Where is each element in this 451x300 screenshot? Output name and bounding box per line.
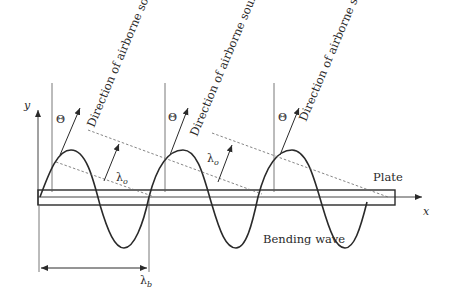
direction-label-3: Direction of airborne sound [296, 0, 372, 123]
direction-label-1: Direction of airborne sound [84, 0, 160, 129]
wavefront-3 [212, 133, 388, 197]
theta-label-3: Θ [278, 111, 287, 124]
theta-label-1: Θ [56, 113, 65, 126]
direction-label-2: Direction of airborne sound [187, 0, 263, 138]
lambda-b-label: λb [140, 274, 152, 289]
bending-wave-label: Bending wave [263, 232, 345, 246]
plate-label: Plate [373, 170, 403, 184]
lambda-o-label-2: λo [207, 152, 219, 167]
x-axis-label: x [423, 205, 430, 218]
bending-wave-diagram: y x Plate λb Bending wave λo λo Θ Θ Θ Di… [0, 0, 451, 300]
lambda-o-label-1: λo [116, 171, 128, 186]
y-axis-label: y [23, 99, 31, 112]
wavefront-1 [56, 162, 152, 196]
wavefront-2 [88, 130, 262, 194]
lambda-o-arrow-2 [218, 145, 232, 182]
theta-label-2: Θ [168, 111, 177, 124]
